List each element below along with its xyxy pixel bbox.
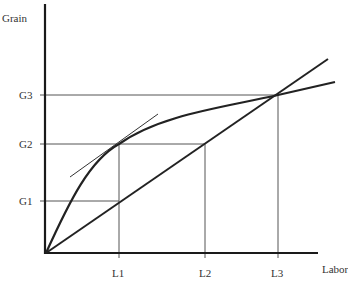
y-axis-label: Grain (2, 12, 28, 24)
g2-label: G2 (19, 138, 32, 150)
l3-label: L3 (271, 267, 284, 279)
x-axis-label: Labor (322, 263, 348, 275)
production-diagram: Grain Labor G3 G2 G1 L1 L2 L3 (0, 0, 348, 287)
l1-label: L1 (112, 267, 124, 279)
l2-label: L2 (199, 267, 211, 279)
production-curve (46, 82, 335, 253)
g1-label: G1 (19, 195, 32, 207)
tangent-line (70, 114, 158, 177)
g3-label: G3 (19, 89, 33, 101)
straight-line (46, 59, 328, 253)
